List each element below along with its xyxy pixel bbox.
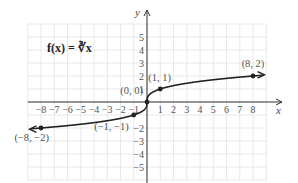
x-axis-label: x xyxy=(275,104,281,116)
svg-text:−3: −3 xyxy=(102,104,113,115)
svg-text:3: 3 xyxy=(139,58,144,69)
axes xyxy=(28,10,282,183)
svg-text:−7: −7 xyxy=(49,104,60,115)
svg-text:(0, 0): (0, 0) xyxy=(120,85,143,97)
svg-text:−8: −8 xyxy=(36,104,47,115)
cube-root-graph: −8−7−6−5−4−3−2−112345678−5−4−3−212345 (−… xyxy=(0,0,298,183)
y-axis-label: y xyxy=(134,6,140,18)
formula-label: f(x) = ∛x xyxy=(47,40,92,55)
svg-text:(1, 1): (1, 1) xyxy=(148,72,171,84)
svg-text:5: 5 xyxy=(139,32,144,43)
svg-text:7: 7 xyxy=(237,104,242,115)
svg-text:1: 1 xyxy=(158,104,163,115)
svg-text:−2: −2 xyxy=(133,123,144,134)
svg-text:−4: −4 xyxy=(133,149,144,160)
svg-text:5: 5 xyxy=(211,104,216,115)
svg-text:(−8, −2): (−8, −2) xyxy=(14,132,49,144)
svg-text:(8, 2): (8, 2) xyxy=(242,58,265,70)
svg-text:−4: −4 xyxy=(89,104,100,115)
svg-text:6: 6 xyxy=(224,104,229,115)
svg-text:−5: −5 xyxy=(75,104,86,115)
svg-text:−5: −5 xyxy=(133,162,144,173)
svg-text:−3: −3 xyxy=(133,136,144,147)
svg-text:−6: −6 xyxy=(62,104,73,115)
svg-text:2: 2 xyxy=(171,104,176,115)
svg-text:(−1, −1): (−1, −1) xyxy=(94,121,129,133)
svg-text:4: 4 xyxy=(198,104,203,115)
svg-text:4: 4 xyxy=(139,45,144,56)
svg-text:−2: −2 xyxy=(115,104,126,115)
svg-text:2: 2 xyxy=(139,71,144,82)
svg-text:8: 8 xyxy=(251,104,256,115)
svg-text:3: 3 xyxy=(184,104,189,115)
